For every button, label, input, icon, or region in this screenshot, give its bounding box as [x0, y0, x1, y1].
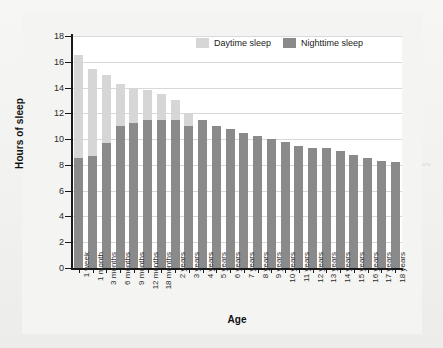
x-tick-mark: [161, 270, 162, 273]
bar-group[interactable]: [171, 36, 180, 268]
y-axis-title: Hours of sleep: [14, 84, 25, 184]
bar-segment-nighttime[interactable]: [267, 139, 276, 268]
bar-segment-daytime[interactable]: [157, 94, 166, 120]
y-tick-label: 6: [36, 187, 64, 196]
bar-group[interactable]: [198, 36, 207, 268]
bar-segment-nighttime[interactable]: [253, 136, 262, 268]
bar-segment-nighttime[interactable]: [308, 148, 317, 268]
bar-segment-nighttime[interactable]: [281, 142, 290, 268]
bar-group[interactable]: [157, 36, 166, 268]
y-tick-mark: [65, 139, 71, 140]
bar-segment-daytime[interactable]: [129, 88, 138, 123]
bar-group[interactable]: [377, 36, 386, 268]
bar-group[interactable]: [88, 36, 97, 268]
x-tick-mark: [395, 270, 396, 273]
y-tick-mark: [65, 36, 71, 37]
bar-group[interactable]: [391, 36, 400, 268]
x-axis-tick-labels: 1 week1 month3 months6 months9 months12 …: [72, 270, 402, 314]
bar-group[interactable]: [294, 36, 303, 268]
y-tick-mark: [65, 191, 71, 192]
bar-group[interactable]: [322, 36, 331, 268]
bar-group[interactable]: [239, 36, 248, 268]
x-tick-label: 4 years: [206, 252, 215, 312]
bar-segment-nighttime[interactable]: [198, 120, 207, 268]
x-tick-mark: [368, 270, 369, 273]
legend-item[interactable]: Nighttime sleep: [283, 38, 363, 48]
x-tick-label: 12 months: [151, 252, 160, 312]
x-tick-mark: [106, 270, 107, 273]
x-tick-label: 1 month: [96, 252, 105, 312]
bar-group[interactable]: [281, 36, 290, 268]
x-tick-mark: [313, 270, 314, 273]
bar-group[interactable]: [349, 36, 358, 268]
bar-segment-nighttime[interactable]: [226, 129, 235, 268]
x-tick-label: 12 years: [316, 252, 325, 312]
x-tick-label: 3 months: [109, 252, 118, 312]
bar-segment-nighttime[interactable]: [212, 126, 221, 268]
bar-group[interactable]: [267, 36, 276, 268]
y-tick-label: 2: [36, 238, 64, 247]
x-tick-label: 7 years: [247, 252, 256, 312]
x-tick-mark: [79, 270, 80, 273]
bar-segment-nighttime[interactable]: [171, 120, 180, 268]
bar-segment-daytime[interactable]: [116, 84, 125, 126]
y-tick-label: 10: [36, 135, 64, 144]
scan-artifact-mark: 〰: [422, 158, 438, 164]
x-tick-mark: [120, 270, 121, 273]
bar-segment-nighttime[interactable]: [322, 148, 331, 268]
bar-segment-nighttime[interactable]: [239, 133, 248, 268]
bar-segment-nighttime[interactable]: [143, 120, 152, 268]
y-tick-mark: [65, 165, 71, 166]
bar-group[interactable]: [184, 36, 193, 268]
bar-segment-nighttime[interactable]: [157, 120, 166, 268]
x-axis-title: Age: [72, 314, 402, 325]
bar-segment-daytime[interactable]: [143, 90, 152, 120]
bar-group[interactable]: [129, 36, 138, 268]
bar-group[interactable]: [226, 36, 235, 268]
y-tick-mark: [65, 268, 71, 269]
bar-segment-daytime[interactable]: [171, 100, 180, 119]
bar-group[interactable]: [336, 36, 345, 268]
x-tick-mark: [148, 270, 149, 273]
bar-group[interactable]: [253, 36, 262, 268]
bar-segment-nighttime[interactable]: [184, 126, 193, 268]
bar-segment-daytime[interactable]: [102, 75, 111, 143]
x-tick-label: 10 years: [288, 252, 297, 312]
bar-segment-nighttime[interactable]: [116, 126, 125, 268]
x-tick-label: 3 years: [192, 252, 201, 312]
y-tick-label: 14: [36, 84, 64, 93]
bar-group[interactable]: [74, 36, 83, 268]
bar-segment-nighttime[interactable]: [102, 143, 111, 268]
y-tick-label: 16: [36, 58, 64, 67]
x-tick-label: 11 years: [302, 252, 311, 312]
x-tick-label: 6 months: [123, 252, 132, 312]
bar-group[interactable]: [363, 36, 372, 268]
bar-group[interactable]: [102, 36, 111, 268]
bar-group[interactable]: [143, 36, 152, 268]
bar-segment-nighttime[interactable]: [129, 123, 138, 268]
x-tick-label: 13 years: [329, 252, 338, 312]
x-tick-mark: [340, 270, 341, 273]
x-tick-label: 8 years: [261, 252, 270, 312]
bar-segment-daytime[interactable]: [74, 55, 83, 158]
x-tick-mark: [216, 270, 217, 273]
legend-item[interactable]: Daytime sleep: [196, 38, 271, 48]
y-tick-label: 18: [36, 32, 64, 41]
x-tick-mark: [271, 270, 272, 273]
bar-group[interactable]: [212, 36, 221, 268]
bar-group[interactable]: [308, 36, 317, 268]
x-tick-mark: [189, 270, 190, 273]
y-tick-mark: [65, 216, 71, 217]
bar-group[interactable]: [116, 36, 125, 268]
y-tick-label: 4: [36, 212, 64, 221]
bar-segment-daytime[interactable]: [184, 113, 193, 126]
x-tick-label: 5 years: [219, 252, 228, 312]
bar-segment-daytime[interactable]: [88, 69, 97, 156]
bar-segment-nighttime[interactable]: [294, 146, 303, 268]
plot-area: 〰: [72, 36, 402, 268]
y-tick-mark: [65, 242, 71, 243]
bar-segment-nighttime[interactable]: [336, 151, 345, 268]
bar-segment-nighttime[interactable]: [349, 155, 358, 268]
x-tick-label: 6 years: [233, 252, 242, 312]
x-tick-mark: [134, 270, 135, 273]
